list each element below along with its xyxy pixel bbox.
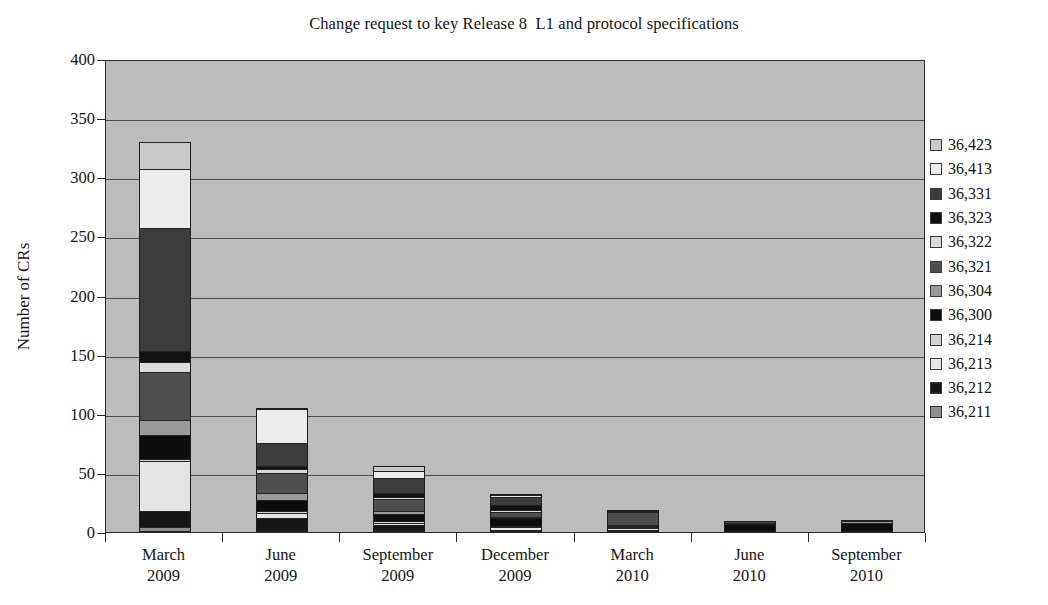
x-label-line: 2010 [691,565,808,586]
bar-segment[interactable] [139,527,191,532]
x-label-line: 2009 [339,565,456,586]
bar-segment[interactable] [139,372,191,419]
legend-swatch-icon [930,406,942,418]
bar-segment[interactable] [139,511,191,528]
plot-area [105,60,925,533]
legend-swatch-icon [930,236,942,248]
legend-swatch-icon [930,163,942,175]
x-label-line: March [574,544,691,565]
bar-segment[interactable] [256,500,308,511]
legend-label: 36,323 [948,209,992,227]
y-tick-label: 0 [35,525,95,542]
legend-swatch-icon [930,261,942,273]
bar-segment[interactable] [373,530,425,532]
bar-segment[interactable] [373,471,425,478]
x-axis-label: March2009 [105,544,222,587]
x-label-line: June [691,544,808,565]
y-tick-label: 400 [35,52,95,69]
bar-segment[interactable] [256,473,308,493]
bar-segment[interactable] [256,409,308,443]
y-tick-label: 150 [35,348,95,365]
legend-item[interactable]: 36,323 [930,206,1042,230]
bar-column[interactable] [490,494,542,532]
x-label-line: September [808,544,925,565]
legend-label: 36,304 [948,282,992,300]
legend-item[interactable]: 36,423 [930,133,1042,157]
bar-segment[interactable] [256,530,308,532]
bar-segment[interactable] [139,420,191,435]
bar-column[interactable] [373,466,425,532]
bar-segment[interactable] [139,461,191,511]
bar-segment[interactable] [490,518,542,526]
bar-segment[interactable] [373,478,425,493]
bar-segment[interactable] [607,531,659,532]
y-tick-label: 200 [35,289,95,306]
legend-swatch-icon [930,188,942,200]
bar-segment[interactable] [373,499,425,511]
bar-segment[interactable] [139,362,191,373]
x-label-line: 2009 [105,565,222,586]
legend-label: 36,423 [948,136,992,154]
x-axis-label: March2010 [574,544,691,587]
bar-segment[interactable] [139,435,191,459]
legend-swatch-icon [930,212,942,224]
y-tick-label: 250 [35,229,95,246]
bar-column[interactable] [139,142,191,532]
bar-segment[interactable] [490,531,542,532]
legend-item[interactable]: 36,413 [930,157,1042,181]
bar-column[interactable] [841,520,893,532]
x-label-line: 2010 [574,565,691,586]
chart-figure: Change request to key Release 8 L1 and p… [0,0,1048,605]
bar-segment[interactable] [139,228,191,351]
x-label-line: June [222,544,339,565]
bar-segment[interactable] [841,523,893,531]
legend-label: 36,331 [948,185,992,203]
legend: 36,42336,41336,33136,32336,32236,32136,3… [930,133,1042,425]
x-label-line: March [105,544,222,565]
x-label-line: 2009 [456,565,573,586]
bar-segment[interactable] [139,351,191,362]
x-label-line: September [339,544,456,565]
legend-label: 36,321 [948,258,992,276]
legend-item[interactable]: 36,300 [930,303,1042,327]
x-label-line: 2009 [222,565,339,586]
legend-label: 36,413 [948,160,992,178]
legend-item[interactable]: 36,212 [930,376,1042,400]
legend-item[interactable]: 36,214 [930,327,1042,351]
legend-item[interactable]: 36,304 [930,279,1042,303]
bar-column[interactable] [724,521,776,532]
legend-item[interactable]: 36,213 [930,352,1042,376]
bar-column[interactable] [607,510,659,532]
legend-item[interactable]: 36,321 [930,254,1042,278]
legend-item[interactable]: 36,322 [930,230,1042,254]
chart-title: Change request to key Release 8 L1 and p… [0,14,1048,34]
bar-segment[interactable] [607,512,659,525]
bar-segment[interactable] [256,518,308,530]
bar-column[interactable] [256,408,308,532]
legend-label: 36,213 [948,355,992,373]
legend-item[interactable]: 36,211 [930,400,1042,424]
x-label-line: December [456,544,573,565]
y-tick-label: 350 [35,111,95,128]
bar-segment[interactable] [490,497,542,505]
bar-segment[interactable] [373,514,425,521]
legend-label: 36,211 [948,403,991,421]
x-axis-label: June2010 [691,544,808,587]
bar-segment[interactable] [139,169,191,228]
y-tick-label: 100 [35,407,95,424]
x-label-line: 2010 [808,565,925,586]
bar-segment[interactable] [841,531,893,532]
legend-label: 36,212 [948,379,992,397]
bar-segment[interactable] [724,524,776,532]
legend-label: 36,300 [948,306,992,324]
legend-swatch-icon [930,334,942,346]
legend-item[interactable]: 36,331 [930,182,1042,206]
bar-segment[interactable] [256,493,308,500]
bar-series-group [106,61,924,532]
bar-segment[interactable] [256,443,308,465]
bar-segment[interactable] [139,142,191,169]
legend-swatch-icon [930,139,942,151]
legend-swatch-icon [930,382,942,394]
x-axis-labels: March2009June2009September2009December20… [105,540,925,600]
x-axis-label: September2009 [339,544,456,587]
